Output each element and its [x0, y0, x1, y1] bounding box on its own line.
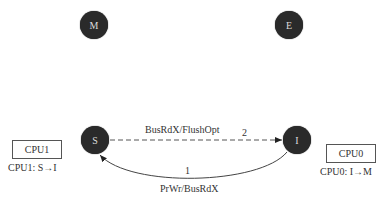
edge-2-step: 2 [242, 127, 247, 138]
cpu1-name: CPU1 [25, 144, 49, 155]
edge-i-to-s-curve [100, 152, 287, 178]
state-m: M [80, 11, 108, 39]
cpu0-transition: CPU0: I→M [320, 166, 372, 177]
state-i-label: I [295, 135, 298, 146]
edge-1-step: 1 [185, 165, 190, 176]
edge-1-label: PrWr/BusRdX [160, 183, 219, 194]
state-i: I [283, 126, 311, 154]
state-s-label: S [92, 135, 98, 146]
cpu1-transition: CPU1: S→I [8, 162, 57, 173]
state-m-label: M [90, 20, 99, 31]
state-s: S [81, 126, 109, 154]
cpu0-box: CPU0 [326, 144, 376, 163]
state-e-label: E [286, 20, 292, 31]
mesi-state-diagram: M E S I BusRdX/FlushOpt 2 1 PrWr/BusRdX … [0, 0, 385, 204]
cpu0-name: CPU0 [339, 148, 363, 159]
state-e: E [275, 11, 303, 39]
edge-2-label: BusRdX/FlushOpt [145, 124, 219, 135]
cpu1-box: CPU1 [12, 140, 62, 159]
